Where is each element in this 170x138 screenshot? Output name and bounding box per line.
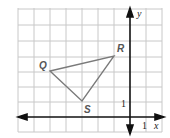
vertex-label-s: S: [84, 104, 91, 115]
vertex-label-r: R: [117, 43, 125, 54]
vertex-label-q: Q: [39, 60, 47, 71]
y-unit-label: 1: [121, 98, 126, 109]
graph-svg: y x 1 1 Q R S: [0, 0, 170, 138]
axes: [18, 8, 164, 134]
y-axis-label: y: [136, 8, 142, 19]
x-axis-label: x: [153, 120, 159, 131]
coordinate-plane-diagram: y x 1 1 Q R S: [0, 0, 170, 138]
x-unit-label: 1: [142, 120, 147, 131]
